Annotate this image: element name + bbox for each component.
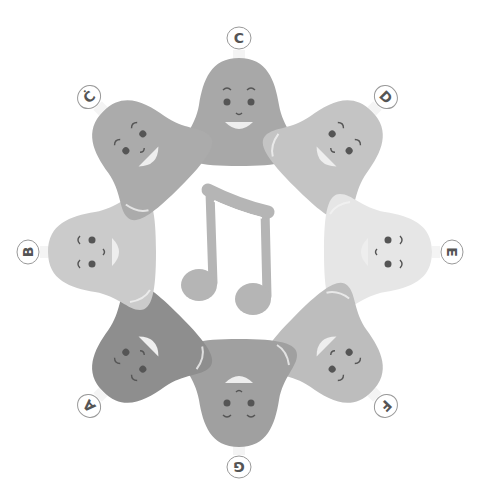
eye-left — [248, 400, 255, 407]
eye-left — [224, 99, 231, 106]
note-label: E — [444, 247, 460, 257]
bells-group: C D E F — [17, 27, 463, 478]
music-note-icon — [181, 190, 271, 315]
eye-left — [89, 261, 96, 268]
bell-c-high: Ċ — [40, 48, 220, 228]
bell-loop — [40, 246, 48, 258]
eye-right — [248, 99, 255, 106]
eye-right — [224, 400, 231, 407]
eye-right — [89, 237, 96, 244]
bell-loop — [233, 50, 245, 58]
eye-right — [385, 261, 392, 268]
bell-loop — [233, 447, 245, 455]
note-label: C — [234, 30, 244, 46]
eye-left — [385, 237, 392, 244]
bell-ring-illustration: C D E F — [0, 0, 479, 499]
bell-loop — [432, 246, 440, 258]
note-label: B — [20, 247, 36, 258]
note-label: G — [233, 459, 245, 475]
